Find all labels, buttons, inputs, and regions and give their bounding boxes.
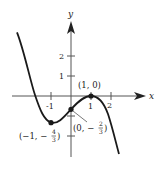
frac-den: 3 [99, 128, 103, 135]
y-tick-label: 2 [59, 52, 64, 61]
x-tick-label: 1 [88, 102, 93, 111]
leader-line [73, 111, 87, 122]
point-1-0 [88, 93, 93, 98]
point-label-neg1-neg4-3: (−1, − 4 3 ) [19, 128, 60, 143]
label-end: ) [57, 131, 60, 141]
frac-num: 4 [52, 128, 56, 135]
y-axis-label: y [67, 9, 74, 19]
x-tick-label: -1 [46, 102, 54, 111]
frac-num: 2 [99, 120, 103, 127]
point-label-1-0: (1, 0) [78, 80, 101, 90]
label-main: (−1, − [19, 131, 47, 141]
label-end: ) [104, 123, 107, 133]
x-tick-label: 2 [107, 101, 112, 110]
y-tick-label: 1 [59, 72, 64, 81]
x-axis-label: x [149, 91, 154, 101]
y-axis: y [67, 9, 75, 157]
point-neg1-neg4-3 [48, 120, 53, 125]
point-label-0-neg2-3: (0, − 2 3 ) [73, 120, 107, 135]
label-main: (0, − [73, 123, 94, 133]
cubic-function-graph: x y -1 1 2 2 1 (1, 0) (0, − 2 3 [0, 0, 161, 169]
point-0-neg2-3 [68, 107, 73, 112]
frac-den: 3 [52, 136, 56, 143]
